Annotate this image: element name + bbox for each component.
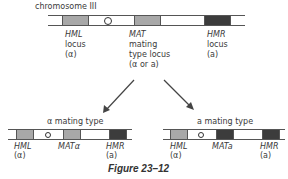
centromere xyxy=(198,132,204,138)
mat-alpha-label: MATα xyxy=(58,142,80,151)
hmr-box xyxy=(109,130,127,139)
mat-alpha-box xyxy=(63,130,81,139)
hml-label: HML xyxy=(170,142,187,151)
hmr-allele: (a) xyxy=(260,151,271,160)
hml-label: HML xyxy=(14,142,31,151)
hml-allele: (α) xyxy=(170,151,182,160)
centromere xyxy=(45,132,51,138)
alpha-mating-type-title: α mating type xyxy=(47,117,103,126)
alpha-chromosome xyxy=(8,129,132,140)
hmr-label: HMR xyxy=(260,142,278,151)
figure-caption: Figure 23–12 xyxy=(108,163,169,174)
a-chromosome xyxy=(163,129,285,140)
arrow-left-icon xyxy=(107,80,134,109)
hmr-label: HMR xyxy=(106,142,124,151)
hml-box xyxy=(16,130,34,139)
mat-a-label: MATa xyxy=(212,142,233,151)
arrows xyxy=(0,0,288,179)
hml-box xyxy=(170,130,188,139)
mat-a-box xyxy=(216,130,234,139)
arrow-right-icon xyxy=(164,80,190,106)
a-mating-type-title: a mating type xyxy=(197,117,253,126)
hmr-allele: (a) xyxy=(106,151,117,160)
hml-allele: (α) xyxy=(14,151,26,160)
hmr-box xyxy=(262,130,280,139)
